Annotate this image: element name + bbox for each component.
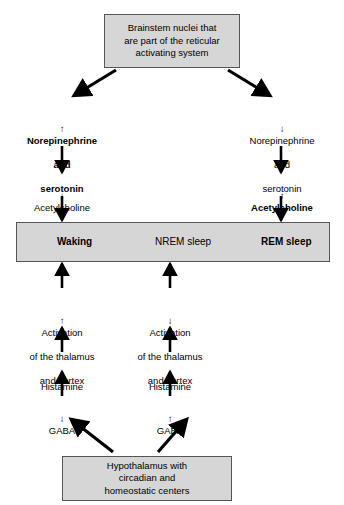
state-nrem-label: NREM sleep: [155, 236, 211, 248]
left-activation-line-1: Activation: [41, 327, 82, 338]
left-ne-line-1: Norepinephrine: [27, 135, 97, 146]
down-arrow-icon: ↓: [168, 369, 173, 380]
left-ne-line-2: and: [6, 159, 118, 171]
mid-gaba-label: ↑ GABA: [114, 401, 226, 437]
down-arrow-icon: ↓: [60, 413, 65, 424]
left-ach-text: Acetylcholine: [34, 202, 90, 213]
mid-gaba-text: GABA: [157, 425, 183, 436]
up-arrow-icon: ↑: [60, 369, 65, 380]
hypothalamus-line-2: circadian and: [104, 472, 189, 485]
left-histamine-text: Histamine: [41, 381, 83, 392]
brainstem-line-1: Brainstem nuclei that: [124, 22, 220, 35]
left-acetylcholine-label: ↓ Acetylcholine: [6, 178, 118, 214]
edge-brainstem-to-left-ne: [75, 70, 116, 95]
state-rem-label: REM sleep: [261, 236, 312, 248]
up-arrow-icon: ↑: [60, 123, 65, 134]
right-acetylcholine-label: ↑ Acetylcholine: [224, 178, 340, 214]
down-arrow-icon: ↓: [280, 123, 285, 134]
sleep-states-box: Waking NREM sleep REM sleep: [16, 222, 330, 262]
hypothalamus-line-3: homeostatic centers: [104, 485, 189, 498]
mid-histamine-label: ↓ Histamine: [114, 357, 226, 393]
mid-activation-line-1: Activation: [149, 327, 190, 338]
right-ach-text: Acetylcholine: [251, 202, 313, 213]
hypothalamus-box: Hypothalamus with circadian and homeosta…: [62, 456, 232, 501]
up-arrow-icon: ↑: [280, 190, 285, 201]
brainstem-line-2: are part of the reticular: [124, 35, 220, 48]
left-gaba-label: ↓ GABA: [6, 401, 118, 437]
edge-brainstem-to-right-ne: [228, 70, 269, 95]
right-ne-line-1: Norepinephrine: [250, 135, 315, 146]
mid-histamine-text: Histamine: [149, 381, 191, 392]
left-gaba-text: GABA: [49, 425, 75, 436]
diagram-canvas: Brainstem nuclei that are part of the re…: [0, 0, 344, 505]
left-histamine-label: ↑ Histamine: [6, 357, 118, 393]
down-arrow-icon: ↓: [168, 315, 173, 326]
up-arrow-icon: ↑: [168, 413, 173, 424]
hypothalamus-line-1: Hypothalamus with: [104, 460, 189, 473]
down-arrow-icon: ↓: [60, 190, 65, 201]
up-arrow-icon: ↑: [60, 315, 65, 326]
brainstem-line-3: activating system: [124, 47, 220, 60]
brainstem-nuclei-box: Brainstem nuclei that are part of the re…: [104, 14, 240, 68]
right-ne-line-2: and: [224, 159, 340, 171]
state-waking-label: Waking: [57, 236, 92, 248]
